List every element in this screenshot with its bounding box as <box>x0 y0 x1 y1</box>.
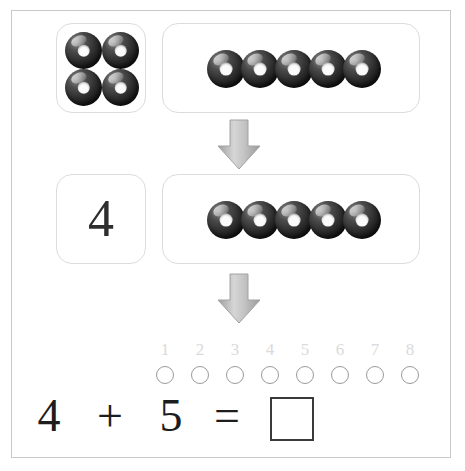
equation-equals-sign: = <box>204 393 250 439</box>
equation-row: 4 + 5 = <box>12 11 450 457</box>
equation-plus-operator: + <box>87 393 133 439</box>
equation-answer-box[interactable] <box>270 397 314 441</box>
page-frame: 4 <box>11 10 451 458</box>
worksheet-page: 4 <box>0 0 465 471</box>
equation-first-addend: 4 <box>26 393 72 439</box>
equation-second-addend: 5 <box>148 393 194 439</box>
